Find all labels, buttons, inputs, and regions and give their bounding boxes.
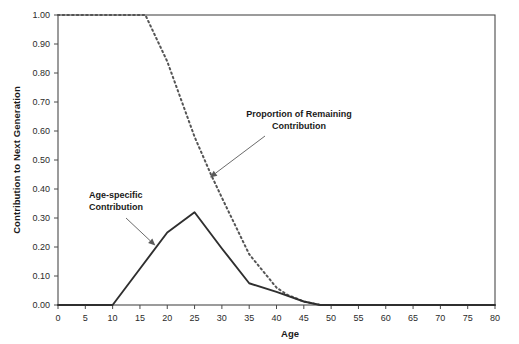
x-tick-label: 20 <box>162 313 172 323</box>
y-axis-title: Contribution to Next Generation <box>11 86 22 234</box>
x-axis-title: Age <box>281 328 299 339</box>
annotation-remaining-line2: Contribution <box>272 121 326 131</box>
x-tick-label: 55 <box>353 313 363 323</box>
x-tick-label: 45 <box>299 313 309 323</box>
x-tick-label: 80 <box>490 313 500 323</box>
series-proportion-of-remaining-contribution <box>58 15 331 305</box>
y-tick-label: 1.00 <box>32 10 50 20</box>
y-tick-label: 0.30 <box>32 213 50 223</box>
x-tick-label: 40 <box>271 313 281 323</box>
x-tick-label: 5 <box>83 313 88 323</box>
x-tick-label: 15 <box>135 313 145 323</box>
x-tick-label: 0 <box>55 313 60 323</box>
x-tick-label: 35 <box>244 313 254 323</box>
y-tick-label: 0.70 <box>32 97 50 107</box>
chart-figure: 0.000.100.200.300.400.500.600.700.800.90… <box>0 0 519 344</box>
x-tick-label: 60 <box>381 313 391 323</box>
chart-svg: 0.000.100.200.300.400.500.600.700.800.90… <box>0 0 519 344</box>
x-tick-label: 30 <box>217 313 227 323</box>
x-tick-label: 70 <box>435 313 445 323</box>
y-tick-label: 0.00 <box>32 300 50 310</box>
y-tick-label: 0.60 <box>32 126 50 136</box>
annotation-remaining-arrow-line <box>216 136 265 173</box>
y-axis-ticks: 0.000.100.200.300.400.500.600.700.800.90… <box>32 10 58 310</box>
y-tick-label: 0.90 <box>32 39 50 49</box>
annotation-remaining: Proportion of Remaining Contribution <box>210 109 352 177</box>
annotation-age-specific: Age-specific Contribution <box>89 190 155 246</box>
y-tick-label: 0.50 <box>32 155 50 165</box>
y-tick-label: 0.80 <box>32 68 50 78</box>
annotation-age-specific-line1: Age-specific <box>89 190 143 200</box>
x-tick-label: 75 <box>463 313 473 323</box>
y-tick-label: 0.20 <box>32 242 50 252</box>
annotation-age-specific-arrow-line <box>126 218 150 241</box>
x-tick-label: 25 <box>190 313 200 323</box>
x-tick-label: 50 <box>326 313 336 323</box>
series-age-specific-contribution <box>58 212 495 305</box>
y-tick-label: 0.40 <box>32 184 50 194</box>
x-tick-label: 65 <box>408 313 418 323</box>
x-axis-ticks: 05101520253035404550556065707580 <box>55 305 500 323</box>
y-tick-label: 0.10 <box>32 271 50 281</box>
annotation-age-specific-line2: Contribution <box>89 202 143 212</box>
plot-frame <box>58 15 495 305</box>
annotation-remaining-line1: Proportion of Remaining <box>246 109 352 119</box>
x-tick-label: 10 <box>108 313 118 323</box>
